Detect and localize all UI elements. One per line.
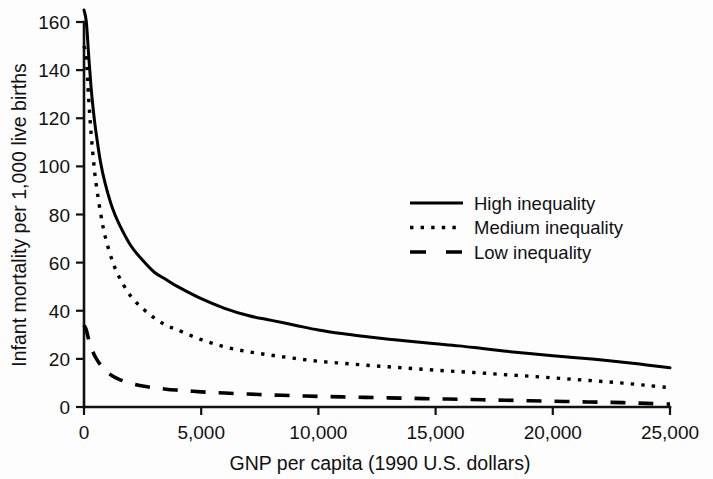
x-axis-ticks: 05,00010,00015,00020,00025,000 [79,407,699,443]
y-tick-label: 20 [49,349,70,370]
series-line-solid [84,10,670,368]
x-tick-label: 5,000 [177,422,225,443]
legend-label: Medium inequality [474,217,624,238]
y-tick-label: 140 [38,60,70,81]
y-axis-ticks: 020406080100120140160 [38,12,84,418]
y-axis-title: Infant mortality per 1,000 live births [8,63,30,367]
x-tick-label: 20,000 [524,422,582,443]
y-tick-label: 80 [49,205,70,226]
y-tick-label: 120 [38,108,70,129]
x-tick-label: 0 [79,422,90,443]
y-tick-label: 160 [38,12,70,33]
x-tick-label: 15,000 [407,422,465,443]
y-tick-label: 0 [59,397,70,418]
x-axis-title: GNP per capita (1990 U.S. dollars) [230,452,531,474]
x-tick-label: 10,000 [289,422,347,443]
chart-legend: High inequalityMedium inequalityLow ineq… [410,193,624,263]
legend-label: High inequality [474,193,596,214]
y-tick-label: 100 [38,156,70,177]
legend-label: Low inequality [474,242,592,263]
plot-axes [84,22,670,407]
y-tick-label: 60 [49,253,70,274]
x-tick-label: 25,000 [641,422,699,443]
y-tick-label: 40 [49,301,70,322]
chart-figure: 020406080100120140160 05,00010,00015,000… [0,0,713,479]
infant-mortality-line-chart: 020406080100120140160 05,00010,00015,000… [0,0,713,479]
